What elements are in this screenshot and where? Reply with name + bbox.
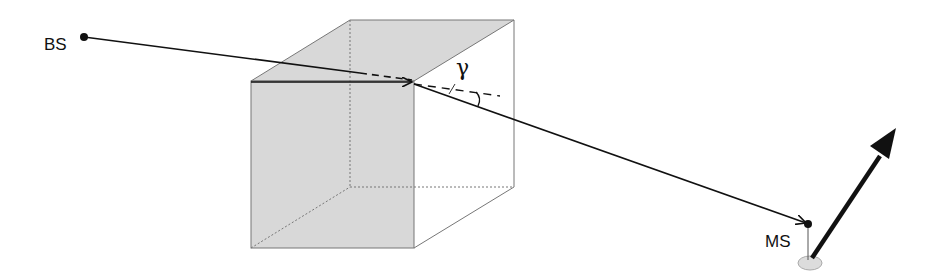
movement-arrow-shaft bbox=[812, 156, 880, 258]
base-station-dot bbox=[80, 33, 88, 41]
diagram-canvas: γ BS MS bbox=[0, 0, 938, 280]
ground-ellipse bbox=[798, 256, 822, 270]
extension-dashed-line bbox=[414, 84, 500, 96]
mobile-station-dot bbox=[804, 220, 812, 228]
building-cube bbox=[251, 20, 514, 248]
angle-label-gamma: γ bbox=[456, 55, 469, 80]
cube-top-face bbox=[251, 20, 514, 81]
cube-front-face bbox=[251, 81, 414, 248]
angle-arc bbox=[476, 92, 480, 106]
base-station-label: BS bbox=[44, 35, 67, 54]
angle-tick bbox=[449, 84, 455, 94]
mobile-station-label: MS bbox=[765, 232, 791, 251]
cube-bottom-right-edge bbox=[414, 187, 514, 248]
movement-arrow-head bbox=[870, 128, 896, 159]
diffracted-ray bbox=[414, 84, 806, 223]
